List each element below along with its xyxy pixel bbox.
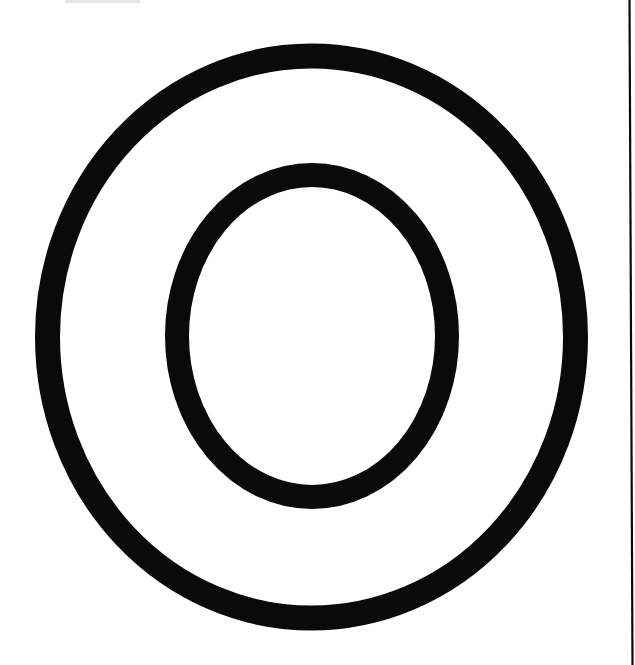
background	[0, 0, 635, 665]
letter-o-figure	[0, 0, 635, 665]
top-smudge-artifact	[65, 0, 140, 3]
